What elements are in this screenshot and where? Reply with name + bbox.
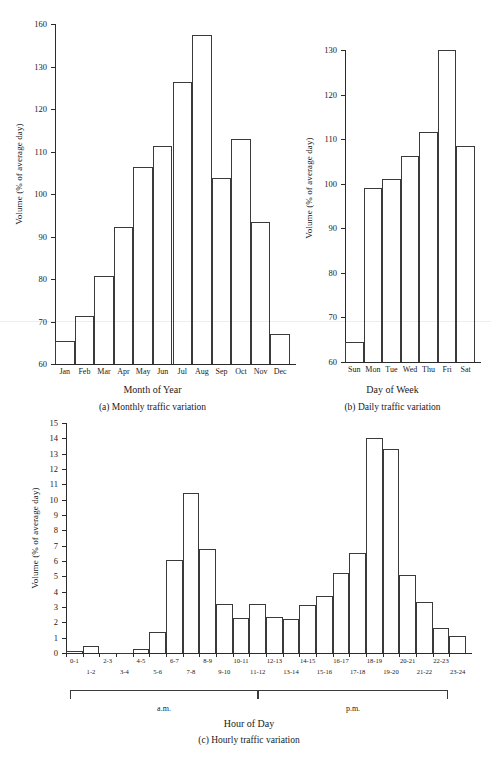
hourly-axis-area: 01234567891011121314150-11-22-33-44-55-6… (66, 423, 466, 653)
hourly-y-tick (62, 515, 66, 516)
hourly-y-axis-label: Volume (% of average day) (28, 423, 42, 653)
monthly-x-tick-label: May (136, 367, 151, 376)
hourly-x-tick-label: 4-5 (137, 657, 146, 664)
hourly-x-tick (366, 653, 367, 657)
bar (401, 156, 420, 362)
daily-y-tick (341, 184, 345, 185)
monthly-y-tick-label: 130 (34, 62, 47, 72)
daily-y-tick (341, 228, 345, 229)
daily-y-tick-label: 120 (324, 90, 337, 100)
daily-y-axis-line (345, 50, 346, 362)
hourly-x-tick (266, 653, 267, 657)
figure-page: Volume (% of average day) 60708090100110… (0, 0, 491, 759)
hourly-y-tick (62, 484, 66, 485)
hourly-x-tick-label: 8-9 (203, 657, 212, 664)
daily-x-tick-label: Wed (403, 365, 417, 374)
bar (416, 602, 433, 653)
monthly-x-tick-label: Apr (117, 367, 129, 376)
monthly-y-tick (51, 194, 55, 195)
hourly-x-tick (449, 653, 450, 657)
hourly-x-tick-label: 22-23 (433, 657, 448, 664)
bar (349, 553, 366, 653)
hourly-y-tick-label: 6 (54, 556, 58, 566)
bar (345, 342, 364, 362)
monthly-x-tick-label: Sep (215, 367, 227, 376)
hourly-x-tick-label: 1-2 (87, 668, 96, 675)
monthly-y-tick (51, 67, 55, 68)
bar (99, 653, 116, 654)
daily-y-tick (341, 50, 345, 51)
hourly-x-tick (316, 653, 317, 657)
bar (212, 178, 232, 364)
bar (364, 188, 383, 362)
bar (438, 50, 457, 362)
bar (382, 179, 401, 362)
hourly-y-tick (62, 576, 66, 577)
daily-x-tick-label: Tue (385, 365, 397, 374)
hourly-x-tick-label: 12-13 (267, 657, 282, 664)
hourly-plot-wrap: Volume (% of average day) 01234567891011… (18, 418, 480, 668)
hourly-x-tick (416, 653, 417, 657)
hourly-x-tick-label: 9-10 (218, 668, 230, 675)
monthly-x-tick-label: Dec (274, 367, 287, 376)
bar (216, 604, 233, 653)
bar (133, 649, 150, 653)
hourly-x-tick (149, 653, 150, 657)
hourly-x-tick (383, 653, 384, 657)
hourly-y-tick-label: 0 (54, 648, 58, 658)
bar (94, 276, 114, 364)
daily-y-tick-label: 130 (324, 45, 337, 55)
hourly-x-tick-label: 16-17 (333, 657, 348, 664)
hourly-x-tick-label: 19-20 (383, 668, 398, 675)
hourly-x-tick-label: 11-12 (250, 668, 265, 675)
hourly-x-tick-label: 23-24 (450, 668, 465, 675)
hourly-caption: (c) Hourly traffic variation (18, 735, 480, 745)
hourly-y-tick (62, 438, 66, 439)
bar (153, 146, 173, 364)
hourly-y-tick-label: 9 (54, 510, 58, 520)
bar (133, 167, 153, 364)
monthly-x-tick-label: Jun (157, 367, 168, 376)
hourly-x-tick-label: 10-11 (233, 657, 248, 664)
hourly-x-tick (99, 653, 100, 657)
hourly-x-tick-label: 5-6 (153, 668, 162, 675)
bar (231, 139, 251, 364)
hourly-x-tick (133, 653, 134, 657)
hourly-x-tick (249, 653, 250, 657)
bar (366, 438, 383, 653)
monthly-y-tick (51, 152, 55, 153)
pm-bracket-label: p.m. (346, 704, 360, 713)
chart-monthly: Volume (% of average day) 60708090100110… (10, 14, 295, 399)
hourly-y-tick (62, 423, 66, 424)
hourly-y-tick (62, 546, 66, 547)
hourly-x-tick-label: 21-22 (417, 668, 432, 675)
daily-y-axis-label-text: Volume (% of average day) (304, 137, 314, 238)
daily-y-tick-label: 110 (325, 134, 337, 144)
daily-y-tick (341, 273, 345, 274)
hourly-y-axis-line (66, 423, 67, 653)
daily-y-tick-label: 70 (329, 312, 338, 322)
monthly-y-axis-label-text: Volume (% of average day) (14, 123, 24, 224)
daily-x-tick-label: Sun (348, 365, 360, 374)
hourly-y-tick-label: 8 (54, 525, 58, 535)
daily-y-tick-label: 90 (329, 223, 338, 233)
hourly-x-tick-label: 20-21 (400, 657, 415, 664)
hourly-x-tick (399, 653, 400, 657)
daily-y-tick (341, 139, 345, 140)
hourly-x-tick-label: 13-14 (283, 668, 298, 675)
hourly-y-tick-label: 15 (50, 418, 59, 428)
hourly-y-tick (62, 638, 66, 639)
hourly-y-tick-label: 7 (54, 541, 58, 551)
hourly-y-tick-label: 13 (50, 449, 59, 459)
monthly-caption: (a) Monthly traffic variation (10, 402, 295, 412)
monthly-y-tick-label: 110 (35, 147, 47, 157)
bar (55, 341, 75, 364)
hourly-x-tick-label: 2-3 (103, 657, 112, 664)
hourly-x-tick (333, 653, 334, 657)
daily-y-tick (341, 317, 345, 318)
hourly-x-tick-label: 14-15 (300, 657, 315, 664)
monthly-y-tick-label: 90 (39, 232, 48, 242)
hourly-x-tick (283, 653, 284, 657)
monthly-y-tick-label: 60 (39, 359, 48, 369)
bar (116, 653, 133, 654)
